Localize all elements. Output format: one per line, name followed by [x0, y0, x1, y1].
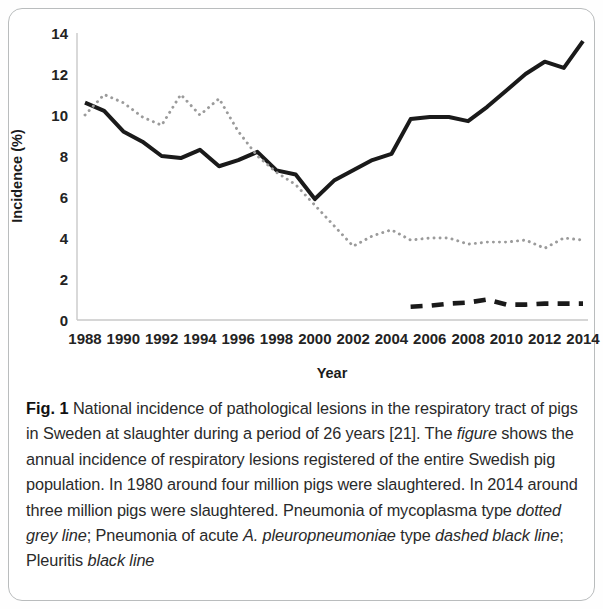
caption-segment: Fig. 1	[26, 399, 69, 417]
x-tick-label: 1992	[145, 330, 178, 347]
x-tick-label: 2004	[375, 330, 409, 347]
y-tick-label: 4	[60, 230, 69, 247]
figure-container: 02468101214 1988199019921994199619982000…	[0, 0, 603, 609]
incidence-line-chart: 02468101214 1988199019921994199619982000…	[0, 0, 603, 390]
chart-plot-area: 02468101214 1988199019921994199619982000…	[0, 0, 603, 390]
y-tick-label: 6	[60, 189, 68, 206]
figure-caption: Fig. 1 National incidence of pathologica…	[26, 396, 582, 574]
x-tick-label: 2014	[566, 330, 600, 347]
caption-segment: type	[396, 526, 435, 544]
caption-segment: figure	[457, 424, 497, 442]
y-tick-label: 2	[60, 271, 68, 288]
series-line-dashed	[411, 300, 583, 307]
x-tick-label: 2006	[413, 330, 446, 347]
caption-segment: black line	[87, 551, 154, 569]
x-tick-label: 2008	[451, 330, 484, 347]
series-line-solid	[85, 41, 583, 199]
x-tick-label: 1994	[183, 330, 217, 347]
caption-segment: dashed black line	[435, 526, 559, 544]
x-axis-title: Year	[317, 365, 348, 381]
y-tick-label: 14	[51, 25, 68, 42]
y-tick-label: 12	[51, 66, 68, 83]
y-tick-labels: 02468101214	[51, 25, 68, 329]
data-series-group	[85, 41, 583, 306]
y-tick-label: 10	[51, 107, 68, 124]
x-tick-label: 2010	[490, 330, 523, 347]
y-axis-title: Incidence (%)	[9, 129, 25, 223]
series-line-dotted	[85, 95, 583, 249]
x-tick-label: 1988	[68, 330, 101, 347]
x-tick-label: 2000	[298, 330, 331, 347]
caption-segment: ; Pneumonia of acute	[87, 526, 243, 544]
x-tick-label: 2002	[336, 330, 369, 347]
x-tick-label: 2012	[528, 330, 561, 347]
x-tick-label: 1998	[260, 330, 293, 347]
y-tick-label: 0	[60, 312, 68, 329]
x-tick-label: 1990	[107, 330, 140, 347]
x-tick-labels: 1988199019921994199619982000200220042006…	[68, 330, 600, 347]
x-tick-label: 1996	[222, 330, 255, 347]
y-tick-label: 8	[60, 148, 68, 165]
caption-segment: A. pleuropneumoniae	[243, 526, 396, 544]
